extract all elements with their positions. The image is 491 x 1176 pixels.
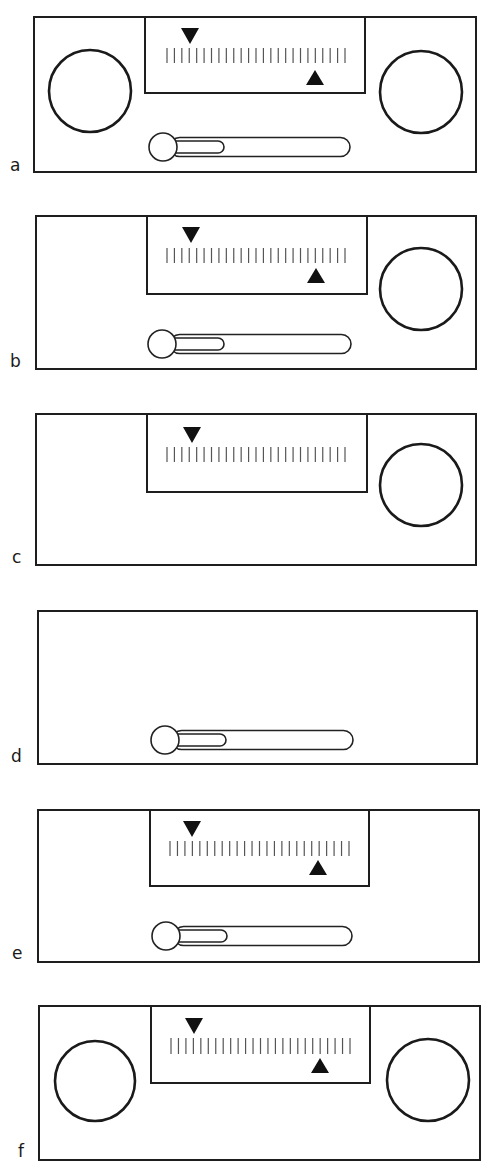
right-dial-circle [380,51,462,133]
slider [152,922,352,950]
scale-box [147,414,367,492]
scale-display [151,1006,370,1083]
slider [148,330,351,358]
slider-knob [149,133,177,161]
scale-display [150,810,369,886]
panel-label-d: d [11,748,22,765]
slider [151,726,353,754]
panel-c [36,414,476,565]
slider-knob [152,922,180,950]
panel-b [36,216,476,369]
slider [149,133,350,161]
scale-display [145,17,365,93]
panel-d [38,611,477,764]
panel-f [39,1006,480,1160]
left-dial-circle [49,50,131,132]
right-dial-circle [387,1039,469,1121]
panel-label-c: c [12,549,21,566]
panel-label-a: a [10,157,20,174]
panel-e [38,810,479,962]
panel-label-f: f [18,1143,24,1160]
panel-label-e: e [12,945,22,962]
diagram-canvas [0,0,491,1176]
left-dial-circle [55,1041,135,1121]
scale-box [147,216,367,294]
right-dial-circle [380,444,462,526]
panel-a [34,17,476,172]
panel-label-b: b [10,353,21,370]
slider-knob [148,330,176,358]
scale-display [147,216,367,294]
right-dial-circle [380,248,462,330]
slider-knob [151,726,179,754]
scale-display [147,414,367,492]
scale-box [145,17,365,93]
